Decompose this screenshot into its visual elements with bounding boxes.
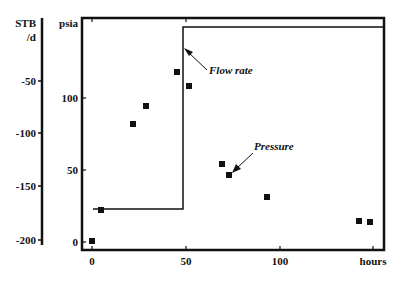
flow-rate-line: [93, 27, 384, 209]
x-axis-label: hours: [360, 255, 388, 267]
left-axis-unit-line1: STB: [15, 17, 36, 29]
chart: STB /d -50 -100 -150 -200 psia 100 50 0 …: [0, 0, 400, 281]
left-axis-unit-line2: /d: [26, 31, 36, 43]
flow-rate-annotation-label: Flow rate: [208, 64, 253, 76]
left-tick-label: -150: [16, 180, 37, 192]
pressure-annotation: Pressure: [232, 140, 294, 173]
x-tick-label: 50: [181, 255, 193, 267]
left-tick-label: -50: [21, 75, 36, 87]
x-tick-label: 0: [89, 255, 95, 267]
psia-tick-label: 0: [73, 236, 79, 248]
x-tick-label: 100: [272, 255, 289, 267]
plot-frame: [82, 18, 384, 250]
x-axis-ticks: [92, 18, 373, 250]
pressure-annotation-label: Pressure: [254, 140, 294, 152]
left-tick-label: -100: [16, 127, 37, 139]
pressure-points: [89, 69, 373, 244]
flow-rate-annotation: Flow rate: [184, 48, 253, 76]
psia-tick-label: 100: [62, 92, 79, 104]
psia-tick-label: 50: [67, 164, 79, 176]
psia-axis-unit: psia: [59, 17, 78, 29]
left-tick-label: -200: [16, 234, 37, 246]
